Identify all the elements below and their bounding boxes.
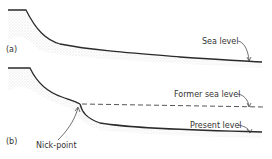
panel-label-b: (b) [6,137,17,146]
sea-level-label: Sea level [202,37,238,46]
panel-label-a: (a) [6,45,17,54]
panel-a: (a) Sea level [6,10,262,68]
former-sea-level-label: Former sea level [174,90,240,99]
nick-point-diagram: (a) Sea level (b) Former sea level Prese… [0,0,272,159]
nick-point-label: Nick-point [36,141,77,150]
present-level-label: Present level [190,121,242,130]
former-sea-level-line [82,104,264,107]
panel-b: (b) Former sea level Present level Nick-… [6,68,264,150]
